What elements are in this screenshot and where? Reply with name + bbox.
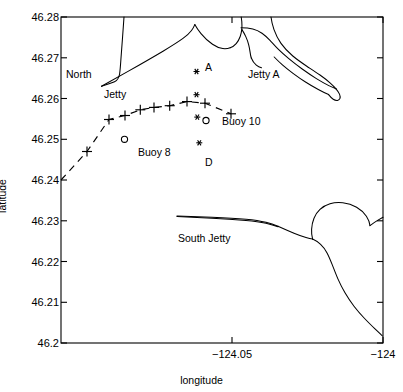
- x-tick-label-0: −124.05: [212, 348, 252, 360]
- x-axis-ticks: [232, 17, 383, 343]
- buoy-circle-markers: [121, 117, 209, 142]
- annotation-north: North: [66, 68, 92, 80]
- coastline-south-jetty: [177, 203, 383, 336]
- annotation-south-jetty: South Jetty: [178, 232, 231, 244]
- coastline-jetty-a-channel: [241, 17, 340, 100]
- station-marker-C: [194, 115, 200, 120]
- annotation-buoy-10: Buoy 10: [222, 115, 261, 127]
- y-tick-label-7: 46.21: [31, 296, 59, 308]
- y-tick-label-5: 46.23: [31, 215, 59, 227]
- y-tick-label-6: 46.22: [31, 256, 59, 268]
- annotation-jetty-a: Jetty A: [248, 68, 280, 80]
- transect-dashed-line: [61, 102, 231, 180]
- station-asterisk-markers: [194, 69, 203, 145]
- y-tick-label-0: 46.28: [31, 11, 59, 23]
- station-marker-D: [196, 140, 202, 145]
- buoy-10-marker: [203, 117, 209, 123]
- y-tick-label-2: 46.26: [31, 93, 59, 105]
- y-tick-label-3: 46.25: [31, 133, 59, 145]
- plot-svg: [0, 0, 403, 392]
- annotation-station-d: D: [205, 156, 213, 168]
- y-tick-label-8: 46.2: [38, 337, 59, 349]
- annotation-station-a: A: [205, 61, 212, 73]
- coastline-north-shore: [102, 17, 262, 86]
- annotation-jetty: Jetty: [104, 88, 126, 100]
- figure-container: latitude longitude: [0, 0, 403, 392]
- annotation-buoy-8: Buoy 8: [138, 146, 171, 158]
- y-axis-ticks: [61, 17, 383, 343]
- station-marker-A: [194, 69, 200, 74]
- axes-frame: [61, 17, 383, 343]
- station-marker-B: [194, 92, 200, 97]
- y-tick-label-4: 46.24: [31, 174, 59, 186]
- y-tick-label-1: 46.27: [31, 52, 59, 64]
- buoy-8-marker: [121, 136, 127, 142]
- x-tick-label-1: −124: [371, 348, 396, 360]
